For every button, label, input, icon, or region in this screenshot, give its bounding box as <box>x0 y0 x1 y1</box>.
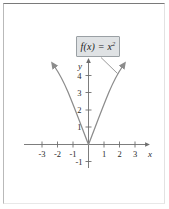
x-tick-label-1: 1 <box>102 149 106 159</box>
x-axis-label: x <box>147 149 152 159</box>
function-callout-box: f(x) = x2 <box>76 36 120 57</box>
x-tick-label-neg2: -2 <box>54 149 61 159</box>
y-tick-label-2: 2 <box>77 105 81 115</box>
plot-canvas: -3 -2 -1 1 2 3 4 3 2 1 -1 x y <box>0 0 169 209</box>
y-tick-label-neg1: -1 <box>75 157 82 167</box>
y-tick-label-1: 1 <box>77 122 81 132</box>
parabola-curve-left <box>55 67 89 145</box>
function-callout-label: f(x) = x2 <box>80 40 115 52</box>
y-tick-label-3: 3 <box>77 88 81 98</box>
function-callout-exponent: 2 <box>112 40 115 47</box>
x-tick-label-3: 3 <box>133 149 137 159</box>
callout-leader-line <box>101 58 118 74</box>
y-axis-label: y <box>77 61 82 71</box>
x-tick-label-neg3: -3 <box>38 149 45 159</box>
graph-figure: -3 -2 -1 1 2 3 4 3 2 1 -1 x y f(x) = x2 <box>0 0 169 209</box>
parabola-curve-right <box>89 67 123 145</box>
x-tick-label-2: 2 <box>117 149 121 159</box>
y-tick-label-4: 4 <box>77 71 82 81</box>
function-callout-prefix: f(x) = x <box>80 42 112 53</box>
